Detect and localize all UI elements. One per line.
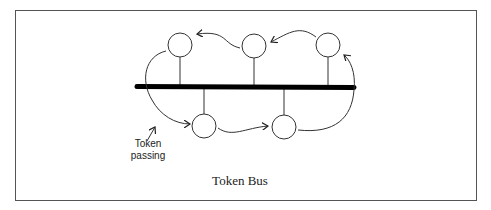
station-top-3	[316, 33, 340, 57]
bus-line	[137, 87, 354, 88]
station-bottom-2	[272, 115, 296, 139]
station-top-1	[168, 33, 192, 57]
token-arrow	[298, 55, 354, 131]
annotation-line-1: Token	[135, 138, 162, 149]
station-bottom-1	[192, 114, 216, 138]
annotation-line-2: passing	[131, 150, 165, 161]
token-arrow	[271, 31, 316, 42]
token-arrow	[197, 33, 240, 48]
token-bus-diagram: Token passing Token Bus	[0, 0, 491, 210]
figure-caption: Token Bus	[212, 173, 268, 188]
station-top-2	[242, 34, 266, 58]
token-arrow	[218, 126, 268, 132]
